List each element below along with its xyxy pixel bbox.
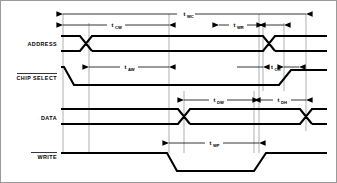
signal-label-write: WRITE — [37, 154, 57, 160]
waveform-write — [61, 153, 327, 171]
waveform-address — [61, 36, 327, 51]
twc-label-base: t — [184, 11, 186, 17]
tcw-label-sub: CW — [115, 25, 122, 30]
twp-label-base: t — [210, 140, 212, 146]
signal-label-data: DATA — [41, 115, 57, 121]
signal-label-chip-select-group: CHIP SELECT — [17, 74, 58, 82]
tdh-label-sub: DH — [281, 100, 287, 105]
tch-label-sub: CH — [275, 67, 281, 72]
signal-label-address: ADDRESS — [27, 41, 57, 47]
twc-label-sub: WC — [187, 14, 194, 19]
waveform-chip-select — [61, 67, 327, 85]
guide-lines — [63, 14, 306, 153]
timing-diagram-svg: ADDRESS CHIP SELECT DATA WRITE t WC t CW — [1, 1, 337, 183]
dimension-twp: t WP — [169, 139, 259, 148]
dimension-twc: t WC — [63, 10, 306, 19]
tdh-label-base: t — [278, 97, 280, 103]
dimension-tcw: t CW — [63, 21, 169, 30]
waveform-data — [61, 109, 327, 124]
tcw-label-base: t — [112, 22, 114, 28]
tch-label-base: t — [271, 64, 273, 70]
dimension-tdw: t DW — [184, 96, 254, 105]
signal-labels: ADDRESS CHIP SELECT DATA WRITE — [17, 41, 58, 160]
tdw-label-sub: DW — [217, 100, 224, 105]
tdw-label-base: t — [214, 97, 216, 103]
twp-label-sub: WP — [213, 143, 220, 148]
signal-label-write-group: WRITE — [31, 153, 57, 161]
twr-label-sub: WR — [237, 25, 244, 30]
taw-label-base: t — [125, 64, 127, 70]
signal-label-chip-select: CHIP SELECT — [17, 75, 58, 81]
timing-diagram-frame: ADDRESS CHIP SELECT DATA WRITE t WC t CW — [0, 0, 337, 183]
dimension-taw: t AW — [89, 63, 169, 72]
taw-label-sub: AW — [128, 67, 135, 72]
dimension-tdh: t DH — [259, 96, 306, 105]
dimension-twr: t WR — [219, 21, 259, 30]
twr-label-base: t — [234, 22, 236, 28]
